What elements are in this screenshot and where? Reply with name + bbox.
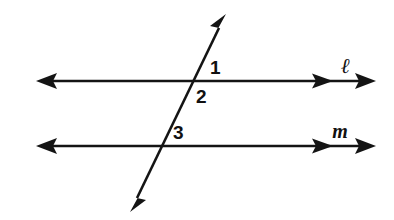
geometry-diagram: ℓ m 1 2 3 [0,0,394,220]
line-l-label: ℓ [341,54,350,78]
geometry-canvas: ℓ m 1 2 3 [0,0,394,220]
line-m-label: m [332,120,348,142]
line-m-group: m [36,120,376,154]
angle-label-1: 1 [210,57,221,78]
transversal-group [130,14,226,212]
angle-label-2: 2 [196,86,207,107]
angle-label-3: 3 [173,122,184,143]
transversal-stroke [137,28,219,198]
line-l-group: ℓ [36,54,376,89]
